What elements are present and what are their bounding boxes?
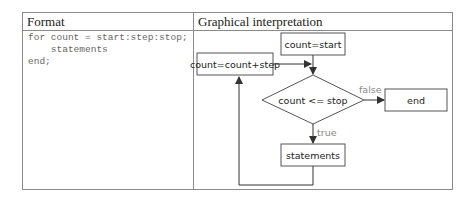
end-label: end [407, 95, 425, 106]
flowchart: count=start count=count+step count <= st… [0, 0, 476, 200]
body-label: statements [286, 150, 340, 161]
init-label: count=start [285, 39, 342, 50]
false-label: false [359, 84, 382, 95]
increment-label: count=count+step [190, 59, 280, 70]
true-label: true [317, 127, 337, 138]
condition-label: count <= stop [278, 95, 347, 106]
